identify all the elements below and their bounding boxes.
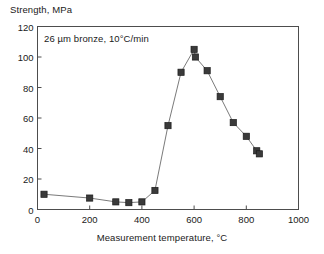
chart-figure: Strength, MPa 26 µm bronze, 10°C/min 020… [0, 0, 324, 254]
y-tick-label: 60 [2, 113, 34, 124]
x-tick-label: 0 [35, 214, 40, 225]
series-markers [41, 46, 263, 205]
y-axis-label: Strength, MPa [10, 4, 72, 15]
data-point-marker [204, 68, 210, 74]
x-tick-label: 600 [186, 214, 202, 225]
data-point-marker [217, 94, 223, 100]
data-point-marker [41, 191, 47, 197]
y-tick-label: 0 [2, 204, 34, 215]
data-point-marker [113, 199, 119, 205]
data-point-marker [126, 200, 132, 206]
y-tick-label: 40 [2, 143, 34, 154]
data-point-marker [165, 123, 171, 129]
chart-annotation: 26 µm bronze, 10°C/min [44, 33, 149, 44]
y-tick-label: 100 [2, 52, 34, 63]
x-tick-label: 400 [134, 214, 150, 225]
x-axis-ticks [38, 206, 299, 210]
data-point-marker [139, 199, 145, 205]
plot-frame [38, 27, 299, 210]
x-tick-label: 1000 [288, 214, 309, 225]
x-axis-label: Measurement temperature, °C [0, 232, 324, 243]
data-point-marker [192, 54, 198, 60]
series-line [44, 49, 259, 202]
data-point-marker [243, 133, 249, 139]
data-point-marker [191, 46, 197, 52]
x-tick-label: 800 [238, 214, 254, 225]
data-point-marker [256, 151, 262, 157]
data-point-marker [152, 187, 158, 193]
data-point-marker [230, 119, 236, 125]
data-point-marker [87, 195, 93, 201]
data-point-marker [178, 69, 184, 75]
y-axis-ticks [38, 27, 42, 210]
y-tick-label: 80 [2, 82, 34, 93]
y-tick-label: 120 [2, 21, 34, 32]
y-tick-label: 20 [2, 174, 34, 185]
x-tick-label: 200 [82, 214, 98, 225]
